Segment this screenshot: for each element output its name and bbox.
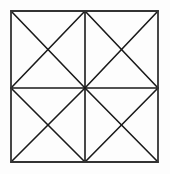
geometric-figure <box>0 0 170 174</box>
figure-canvas <box>0 0 170 174</box>
